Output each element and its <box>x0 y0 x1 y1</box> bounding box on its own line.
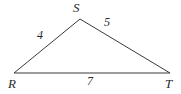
triangle-figure: S R T 4 5 7 <box>0 0 181 94</box>
side-length-st: 5 <box>104 16 110 28</box>
side-length-rs: 4 <box>37 29 43 41</box>
vertex-label-r: R <box>8 77 16 90</box>
vertex-label-s: S <box>73 1 80 14</box>
vertex-label-t: T <box>165 77 172 90</box>
side-length-rt: 7 <box>87 75 93 87</box>
